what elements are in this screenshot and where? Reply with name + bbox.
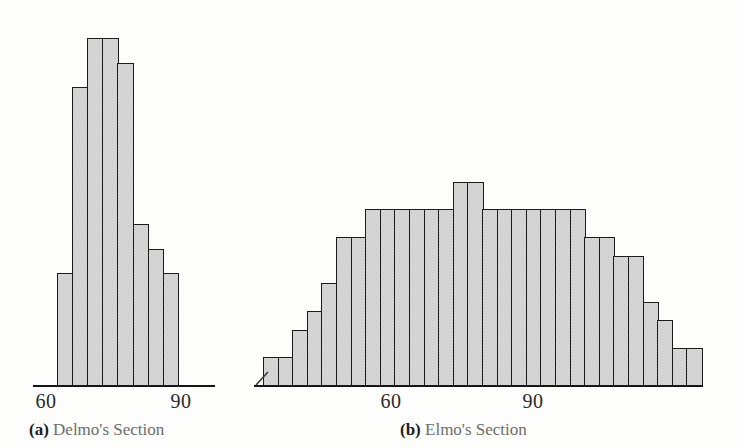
bars-layer-delmo (0, 0, 250, 448)
xtick-label-90-delmo: 90 (161, 390, 201, 413)
plot-area-elmo: 60 90 (b) Elmo's Section (240, 0, 743, 448)
figure-root: 60 90 (a) Delmo's Section 60 90 (b) Elmo… (0, 0, 743, 448)
histogram-bar (686, 348, 702, 385)
bars-layer-elmo (240, 0, 743, 448)
axis-break-icon (255, 371, 271, 385)
caption-tag-b: (b) (400, 420, 421, 439)
chart-panel-elmo: 60 90 (b) Elmo's Section (240, 0, 743, 448)
x-axis-elmo (254, 385, 703, 387)
histogram-bar (163, 273, 180, 385)
caption-elmo: (b) Elmo's Section (400, 420, 527, 440)
plot-area-delmo: 60 90 (a) Delmo's Section (0, 0, 250, 448)
xtick-label-60-delmo: 60 (26, 390, 66, 413)
caption-text-a: Delmo's Section (53, 420, 164, 439)
x-axis-delmo (33, 385, 215, 387)
caption-text-b: Elmo's Section (425, 420, 527, 439)
xtick-label-90-elmo: 90 (513, 390, 553, 413)
xtick-label-60-elmo: 60 (371, 390, 411, 413)
caption-delmo: (a) Delmo's Section (29, 420, 164, 440)
chart-panel-delmo: 60 90 (a) Delmo's Section (0, 0, 250, 448)
caption-tag-a: (a) (29, 420, 49, 439)
